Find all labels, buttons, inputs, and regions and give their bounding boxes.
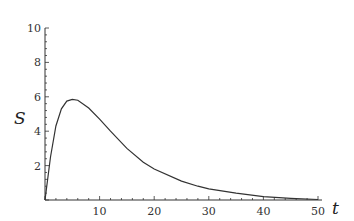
data-series-line [45,99,318,200]
y-tick-label: 10 [27,22,41,35]
x-tick-label: 40 [256,205,270,218]
axes: 1020304050 246810 [27,22,325,218]
y-tick-label: 4 [34,125,41,138]
x-tick-label: 20 [147,205,161,218]
line-chart: 1020304050 246810 t S [0,0,354,221]
y-tick-label: 8 [34,56,41,69]
y-ticks: 246810 [27,22,49,200]
y-tick-label: 6 [34,91,41,104]
y-axis-label: S [14,108,26,128]
x-tick-label: 50 [311,205,325,218]
y-tick-label: 2 [34,160,41,173]
x-axis-label: t [332,198,339,218]
x-ticks: 1020304050 [45,196,325,218]
x-tick-label: 10 [93,205,107,218]
x-tick-label: 30 [202,205,216,218]
